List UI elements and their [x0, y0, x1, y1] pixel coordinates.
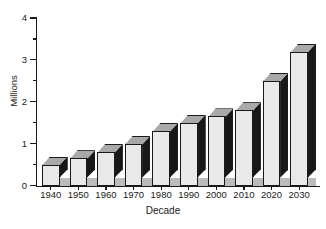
y-tick-minor — [33, 164, 37, 165]
bar-side-face — [170, 123, 178, 177]
x-tick-label: 2030 — [282, 189, 316, 200]
bar-front-face — [125, 144, 143, 186]
bar-front-face — [70, 158, 88, 185]
y-tick-major — [30, 143, 36, 144]
bar-front-face — [235, 110, 253, 185]
bar — [125, 136, 151, 186]
y-tick-label: 4 — [11, 13, 27, 23]
bar — [180, 115, 206, 186]
bar — [263, 73, 289, 186]
bar — [235, 102, 261, 185]
y-axis-line — [36, 17, 37, 186]
y-tick-major — [30, 17, 36, 18]
bar — [97, 144, 123, 186]
y-tick-minor — [33, 122, 37, 123]
bar-side-face — [253, 102, 261, 177]
bar — [208, 108, 234, 185]
y-tick-major — [30, 101, 36, 102]
bar-front-face — [97, 152, 115, 186]
bar-chart: 01234 1940195019601970198019902000201020… — [0, 0, 326, 229]
bar — [42, 157, 68, 186]
bar — [152, 123, 178, 185]
bar-front-face — [290, 52, 308, 186]
bar-side-face — [198, 115, 206, 178]
x-axis-title: Decade — [0, 205, 326, 216]
bar-front-face — [152, 131, 170, 185]
y-tick-minor — [33, 38, 37, 39]
bar-side-face — [225, 108, 233, 177]
bar — [70, 150, 96, 185]
y-tick-major — [30, 185, 36, 186]
y-tick-major — [30, 59, 36, 60]
bar-front-face — [263, 81, 281, 186]
y-tick-label: 0 — [11, 181, 27, 191]
y-tick-label: 1 — [11, 139, 27, 149]
bar — [290, 44, 316, 186]
y-axis-title: Millions — [9, 63, 19, 119]
bar-front-face — [208, 116, 226, 185]
y-tick-minor — [33, 80, 37, 81]
bar-side-face — [308, 44, 316, 178]
bar-side-face — [280, 73, 288, 178]
bar-front-face — [42, 165, 60, 186]
bar-front-face — [180, 123, 198, 186]
